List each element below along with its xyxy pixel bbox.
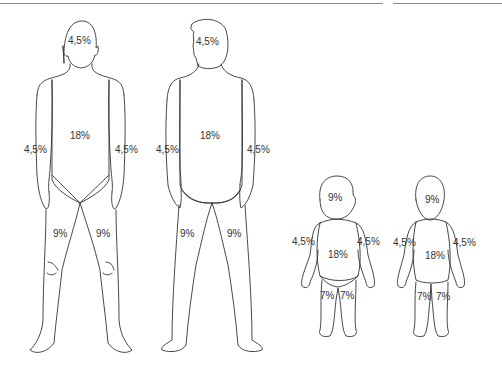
adult-back-trunk-label: 18% bbox=[200, 131, 220, 141]
adult-back-torso bbox=[180, 80, 242, 203]
adult-front-trunk-label: 18% bbox=[70, 131, 90, 141]
adult-front-figure bbox=[30, 21, 132, 352]
child-front-trunk-label: 18% bbox=[328, 250, 348, 260]
adult-front-knees bbox=[47, 262, 114, 275]
child-back-left-arm-label: 4,5% bbox=[393, 238, 416, 248]
adult-front-left-leg bbox=[30, 203, 80, 352]
child-back-right-arm-label: 4,5% bbox=[453, 238, 476, 248]
child-front-left-leg-label: 7% bbox=[320, 291, 334, 301]
adult-back-buttocks bbox=[182, 190, 240, 203]
adult-back-left-leg bbox=[162, 203, 212, 352]
adult-front-torso bbox=[52, 80, 109, 203]
adult-back-right-arm-label: 4,5% bbox=[247, 145, 270, 155]
adult-front-left-leg-label: 9% bbox=[53, 229, 67, 239]
child-front-left-arm-label: 4,5% bbox=[292, 237, 315, 247]
child-back-trunk-label: 18% bbox=[425, 251, 445, 261]
adult-back-left-leg-label: 9% bbox=[180, 229, 194, 239]
child-front-legs bbox=[319, 280, 356, 337]
adult-front-right-arm-label: 4,5% bbox=[115, 145, 138, 155]
adult-back-right-leg bbox=[212, 203, 262, 352]
child-front-diaper bbox=[320, 276, 358, 287]
adult-front-briefs bbox=[52, 175, 109, 203]
child-front-right-arm-label: 4,5% bbox=[357, 237, 380, 247]
body-outlines bbox=[0, 0, 502, 371]
child-back-right-leg-label: 7% bbox=[436, 292, 450, 302]
adult-front-right-leg-label: 9% bbox=[96, 229, 110, 239]
child-front-right-leg-label: 7% bbox=[340, 291, 354, 301]
adult-back-figure bbox=[162, 19, 263, 351]
adult-front-neck-shoulders bbox=[37, 64, 124, 95]
child-back-left-leg-label: 7% bbox=[417, 292, 431, 302]
child-front-head-label: 9% bbox=[328, 193, 342, 203]
child-back-head-label: 9% bbox=[425, 195, 439, 205]
adult-front-right-leg bbox=[80, 203, 132, 352]
adult-back-head-label: 4,5% bbox=[196, 37, 219, 47]
adult-back-left-arm-label: 4,5% bbox=[156, 145, 179, 155]
adult-front-left-arm-label: 4,5% bbox=[24, 145, 47, 155]
adult-back-right-leg-label: 9% bbox=[227, 229, 241, 239]
child-front-right-arm bbox=[356, 223, 375, 288]
adult-front-head-label: 4,5% bbox=[68, 36, 91, 46]
